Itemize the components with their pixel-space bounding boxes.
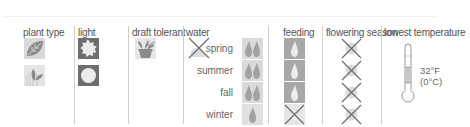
bright-sun-icon (78, 38, 99, 59)
temperature-fahrenheit: 32°F (420, 65, 440, 76)
double-drop-icon (242, 60, 263, 81)
column-divider (322, 26, 323, 124)
none-x-icon (341, 82, 362, 103)
column-divider (268, 26, 269, 124)
water-season-winter: winter (183, 109, 233, 120)
feeding-drop-icon (284, 38, 305, 59)
column-divider (74, 26, 75, 124)
temperature-celsius: (0°C) (420, 76, 442, 87)
double-drop-icon (242, 38, 263, 59)
double-drop-icon (242, 82, 263, 103)
feeding-drop-icon (284, 82, 305, 103)
none-x-icon (341, 104, 362, 125)
header-plant-type: plant type (23, 27, 64, 38)
thermometer-icon (400, 43, 416, 105)
none-x-icon (341, 60, 362, 81)
header-light: light (78, 27, 95, 38)
medium-sun-icon (78, 65, 99, 86)
column-divider (128, 26, 129, 124)
feeding-drop-icon (284, 60, 305, 81)
single-drop-icon (242, 104, 263, 125)
header-lowest-temperature: lowest temperature (384, 27, 465, 38)
header-feeding: feeding (283, 27, 314, 38)
potted-plant-icon (135, 38, 156, 59)
water-season-summer: summer (183, 65, 233, 76)
header-draft-tolerant: draft tolerant (132, 27, 185, 38)
foliage-sprout-icon (24, 65, 45, 86)
column-divider (381, 26, 382, 124)
none-x-icon (284, 104, 305, 125)
leaf-icon (24, 38, 45, 59)
water-season-spring: spring (183, 43, 233, 54)
top-rule (5, 16, 435, 17)
none-x-icon (341, 38, 362, 59)
water-season-fall: fall (183, 87, 233, 98)
